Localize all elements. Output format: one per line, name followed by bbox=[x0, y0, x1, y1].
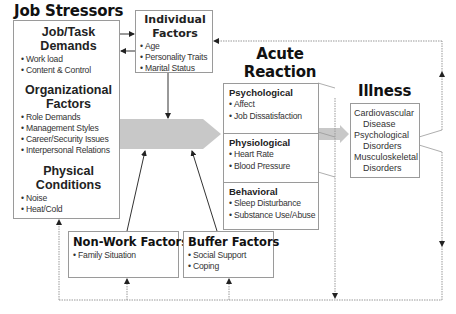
acute-to-illness-arrow bbox=[318, 125, 349, 143]
job-stressors-box: Job/Task Demands Work load Content & Con… bbox=[13, 20, 120, 219]
list-item: Heat/Cold bbox=[21, 204, 116, 215]
illness-box: Cardiovascular Disease Psychological Dis… bbox=[350, 103, 420, 178]
illness-item: Cardiovascular bbox=[354, 108, 416, 119]
list-item: Heart Rate bbox=[229, 148, 314, 160]
psychological-section: Psychological Affect Job Dissatisfaction bbox=[224, 84, 318, 133]
heading-line: Reaction bbox=[240, 63, 320, 81]
list-item: Interpersonal Relations bbox=[21, 145, 116, 156]
heading-line: Individual bbox=[140, 13, 210, 27]
heading-line: Job/Task bbox=[21, 25, 116, 39]
list-item: Career/Security Issues bbox=[21, 134, 116, 145]
physical-list: Noise Heat/Cold bbox=[21, 193, 116, 215]
organizational-heading: Organizational Factors bbox=[21, 83, 116, 111]
buffer-heading: Buffer Factors bbox=[188, 235, 269, 249]
job-task-list: Work load Content & Control bbox=[21, 54, 116, 76]
list-item: Content & Control bbox=[21, 65, 116, 76]
section-heading: Psychological bbox=[229, 87, 314, 98]
nonwork-to-main-arrow bbox=[127, 151, 145, 231]
heading-line: Acute bbox=[240, 45, 320, 63]
list-item: Personality Traits bbox=[140, 52, 210, 63]
list-item: Sleep Disturbance bbox=[229, 197, 314, 209]
illness-item: Psychological bbox=[354, 130, 416, 141]
job-task-heading: Job/Task Demands bbox=[21, 25, 116, 53]
individual-factors-box: Individual Factors Age Personality Trait… bbox=[135, 10, 213, 73]
non-work-factors-box: Non-Work Factors Family Situation bbox=[68, 231, 179, 278]
list-item: Social Support bbox=[188, 250, 269, 261]
list-item: Role Demands bbox=[21, 112, 116, 123]
list-item: Coping bbox=[188, 261, 269, 272]
illness-item-cont: Disorders bbox=[354, 163, 416, 174]
section-heading: Physiological bbox=[229, 137, 314, 148]
buffer-factors-box: Buffer Factors Social Support Coping bbox=[183, 231, 274, 278]
heading-line: Organizational bbox=[21, 83, 116, 97]
individual-heading: Individual Factors bbox=[140, 13, 210, 41]
list-item: Work load bbox=[21, 54, 116, 65]
illness-heading: Illness bbox=[358, 82, 411, 100]
behavioral-section: Behavioral Sleep Disturbance Substance U… bbox=[224, 182, 318, 223]
heading-line: Demands bbox=[21, 39, 116, 53]
buffer-to-main-arrow bbox=[192, 151, 217, 231]
list-item: Noise bbox=[21, 193, 116, 204]
illness-bracket-lines bbox=[419, 130, 442, 152]
list-item: Affect bbox=[229, 98, 314, 110]
job-stressors-title: Job Stressors bbox=[14, 2, 123, 20]
list-item: Family Situation bbox=[73, 250, 174, 261]
main-flow-arrow bbox=[120, 119, 221, 149]
list-item: Age bbox=[140, 41, 210, 52]
organizational-list: Role Demands Management Styles Career/Se… bbox=[21, 112, 116, 156]
heading-line: Factors bbox=[21, 97, 116, 111]
acute-reaction-box: Psychological Affect Job Dissatisfaction… bbox=[223, 83, 319, 230]
heading-line: Physical bbox=[21, 164, 116, 178]
illness-item-cont: Disease bbox=[354, 119, 416, 130]
physiological-section: Physiological Heart Rate Blood Pressure bbox=[224, 133, 318, 182]
list-item: Management Styles bbox=[21, 123, 116, 134]
heading-line: Factors bbox=[140, 27, 210, 41]
section-heading: Behavioral bbox=[229, 186, 314, 197]
non-work-heading: Non-Work Factors bbox=[73, 235, 174, 249]
list-item: Blood Pressure bbox=[229, 160, 314, 172]
individual-list: Age Personality Traits Marital Status bbox=[140, 41, 210, 74]
acute-reaction-heading: Acute Reaction bbox=[240, 45, 320, 81]
heading-line: Conditions bbox=[21, 178, 116, 192]
illness-item-cont: Disorders bbox=[354, 141, 416, 152]
illness-item: Musculoskeletal bbox=[354, 152, 416, 163]
list-item: Marital Status bbox=[140, 63, 210, 74]
list-item: Substance Use/Abuse bbox=[229, 209, 314, 221]
list-item: Job Dissatisfaction bbox=[229, 110, 314, 122]
physical-heading: Physical Conditions bbox=[21, 164, 116, 192]
